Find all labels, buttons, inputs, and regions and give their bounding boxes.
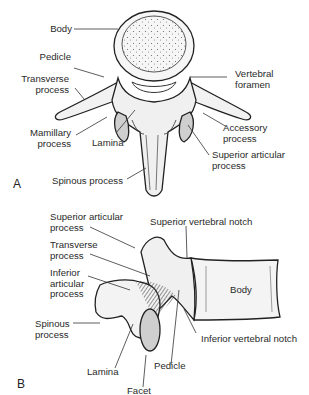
- line2: process: [212, 160, 246, 171]
- line2: articular: [50, 278, 84, 289]
- label-facet-b: Facet: [127, 386, 151, 395]
- label-body-a: Body: [50, 24, 72, 35]
- line1: Spinous: [35, 318, 70, 329]
- line1: Superior articular: [50, 211, 123, 222]
- label-superior-articular-process-a: Superior articularprocess: [212, 150, 285, 171]
- label-pedicle-b: Pedicle: [154, 361, 185, 372]
- label-transverse-process-a: Transverseprocess: [21, 74, 69, 95]
- label-spinous-process-a: Spinous process: [52, 176, 123, 187]
- line1: Inferior: [50, 267, 80, 278]
- label-accessory-process-a: Accessoryprocess: [223, 123, 267, 144]
- label-superior-vertebral-notch-b: Superior vertebral notch: [150, 217, 252, 228]
- line2: process: [50, 250, 84, 261]
- line1: Accessory: [223, 122, 267, 133]
- label-body-b: Body: [230, 285, 252, 296]
- line2: process: [223, 133, 257, 144]
- label-inferior-articular-process-b: Inferiorarticularprocess: [50, 268, 84, 300]
- label-mamillary-process-a: Mamillaryprocess: [30, 128, 71, 149]
- label-lamina-a: Lamina: [92, 138, 123, 149]
- line2: foramen: [235, 79, 270, 90]
- line1: Transverse: [21, 73, 69, 84]
- line3: process: [50, 288, 84, 299]
- line1: Vertebral: [235, 68, 273, 79]
- label-superior-articular-process-b: Superior articularprocess: [50, 212, 123, 233]
- label-vertebral-foramen-a: Vertebralforamen: [235, 69, 273, 90]
- line1: Mamillary: [30, 127, 71, 138]
- line2: process: [37, 138, 71, 149]
- line1: Transverse: [50, 239, 98, 250]
- label-spinous-process-b: Spinousprocess: [35, 319, 70, 340]
- panel-letter-b: B: [17, 377, 25, 391]
- label-lamina-b: Lamina: [87, 367, 118, 378]
- line2: process: [35, 84, 69, 95]
- line2: process: [50, 222, 84, 233]
- label-inferior-vertebral-notch-b: Inferior vertebral notch: [201, 334, 297, 345]
- line2: process: [35, 329, 69, 340]
- panel-letter-a: A: [13, 177, 21, 191]
- line1: Superior articular: [212, 149, 285, 160]
- label-pedicle-a: Pedicle: [40, 52, 71, 63]
- label-transverse-process-b: Transverseprocess: [50, 240, 98, 261]
